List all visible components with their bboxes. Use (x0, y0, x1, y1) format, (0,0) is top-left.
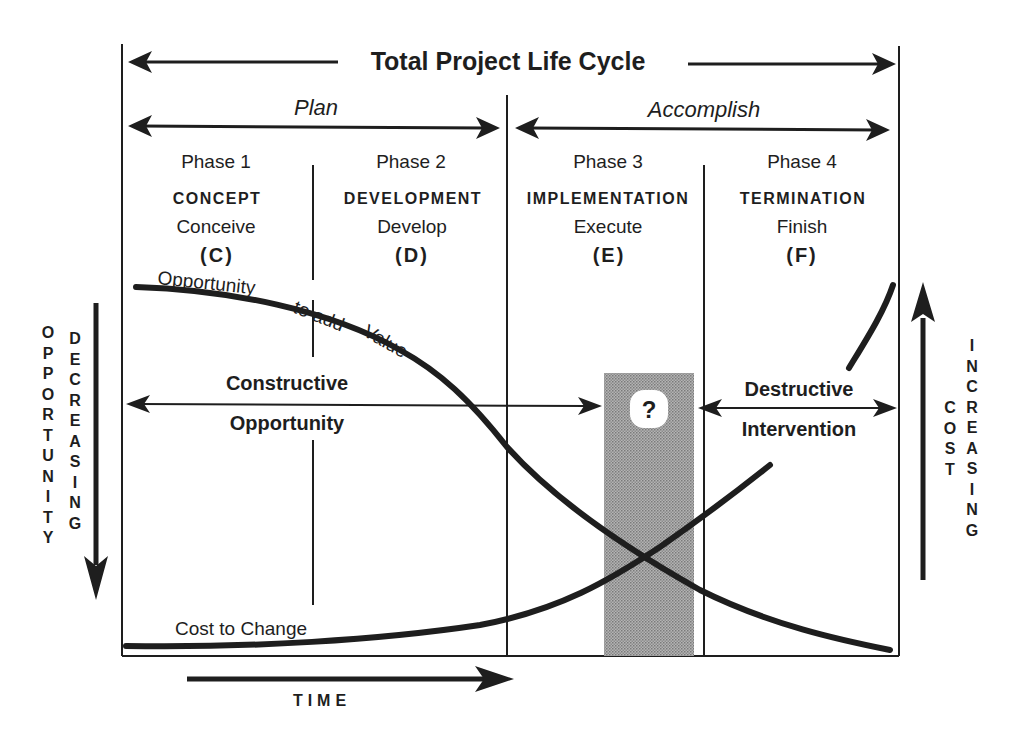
svg-text:Value: Value (360, 320, 411, 362)
svg-text:Finish: Finish (777, 216, 828, 237)
svg-text:R: R (966, 399, 978, 416)
svg-text:C: C (944, 399, 956, 416)
svg-text:Phase 2: Phase 2 (376, 151, 446, 172)
svg-text:A: A (966, 440, 978, 457)
svg-text:A: A (69, 433, 81, 450)
svg-text:Phase 4: Phase 4 (767, 151, 837, 172)
svg-text:I: I (970, 337, 974, 354)
project-life-cycle-diagram: Total Project Life Cycle Plan Accomplish… (0, 0, 1021, 745)
intervention-label: Intervention (742, 418, 856, 440)
right-axis-label-cost: COST (944, 399, 956, 478)
svg-text:(C): (C) (200, 244, 234, 266)
right-axis-label-increasing: INCREASING (966, 337, 978, 539)
question-badge: ? (630, 390, 668, 428)
left-axis-label-decreasing: DECREASING (69, 330, 81, 532)
svg-text:P: P (43, 345, 54, 362)
svg-text:U: U (42, 447, 54, 464)
svg-text:P: P (43, 365, 54, 382)
constructive-label: Constructive (226, 372, 348, 394)
opportunity-label: Opportunity (230, 412, 345, 434)
left-axis-arrow (84, 303, 108, 600)
time-axis-label: TIME (293, 692, 351, 709)
svg-text:T: T (43, 509, 53, 526)
svg-text:E: E (70, 351, 81, 368)
svg-text:N: N (966, 501, 978, 518)
svg-text:C: C (69, 371, 81, 388)
destructive-intervention-arrow (698, 399, 897, 417)
svg-text:O: O (42, 386, 54, 403)
left-axis-label-opportunity: OPPORTUNITY (42, 324, 54, 546)
svg-text:E: E (967, 419, 978, 436)
svg-text:CONCEPT: CONCEPT (173, 190, 262, 207)
diagram-frame (122, 44, 899, 656)
svg-text:N: N (69, 494, 81, 511)
svg-text:(E): (E) (593, 244, 626, 266)
right-axis-arrow (911, 282, 935, 580)
svg-text:D: D (69, 330, 81, 347)
svg-text:Y: Y (43, 529, 54, 546)
svg-text:Execute: Execute (574, 216, 643, 237)
svg-text:E: E (70, 412, 81, 429)
svg-text:N: N (966, 358, 978, 375)
svg-text:I: I (73, 474, 77, 491)
svg-text:?: ? (642, 396, 657, 423)
svg-text:I: I (46, 488, 50, 505)
svg-text:G: G (69, 515, 81, 532)
svg-text:Develop: Develop (377, 216, 447, 237)
svg-text:Conceive: Conceive (176, 216, 255, 237)
group-label-accomplish: Accomplish (646, 97, 760, 122)
svg-text:I: I (970, 481, 974, 498)
svg-text:Phase 3: Phase 3 (573, 151, 643, 172)
svg-text:DEVELOPMENT: DEVELOPMENT (344, 190, 482, 207)
svg-text:IMPLEMENTATION: IMPLEMENTATION (527, 190, 690, 207)
phase-4-header: Phase 4 TERMINATION Finish (F) (740, 151, 866, 266)
opportunity-curve-label: Opportunity to add Value (157, 267, 412, 362)
svg-text:S: S (70, 453, 81, 470)
svg-text:T: T (43, 427, 53, 444)
svg-text:R: R (42, 406, 54, 423)
svg-text:to add: to add (291, 296, 348, 335)
cost-to-change-curve-upper (849, 285, 893, 368)
svg-text:R: R (69, 392, 81, 409)
constructive-opportunity-arrow (126, 395, 602, 415)
svg-text:(D): (D) (395, 244, 429, 266)
opportunity-curve (136, 287, 890, 650)
destructive-label: Destructive (745, 378, 854, 400)
diagram-title: Total Project Life Cycle (371, 47, 646, 75)
time-arrow (187, 666, 514, 692)
cost-to-change-label: Cost to Change (175, 618, 307, 639)
svg-text:S: S (967, 460, 978, 477)
svg-text:G: G (966, 522, 978, 539)
svg-text:Phase 1: Phase 1 (181, 151, 251, 172)
svg-text:O: O (42, 324, 54, 341)
svg-text:S: S (945, 440, 956, 457)
group-label-plan: Plan (294, 95, 338, 120)
svg-text:TERMINATION: TERMINATION (740, 190, 866, 207)
phase-2-header: Phase 2 DEVELOPMENT Develop (D) (344, 151, 482, 266)
phase-3-header: Phase 3 IMPLEMENTATION Execute (E) (527, 151, 690, 266)
phase-1-header: Phase 1 CONCEPT Conceive (C) (173, 151, 262, 266)
svg-text:O: O (944, 420, 956, 437)
svg-text:T: T (945, 461, 955, 478)
svg-text:N: N (42, 468, 54, 485)
svg-text:(F): (F) (786, 244, 818, 266)
svg-text:C: C (966, 378, 978, 395)
